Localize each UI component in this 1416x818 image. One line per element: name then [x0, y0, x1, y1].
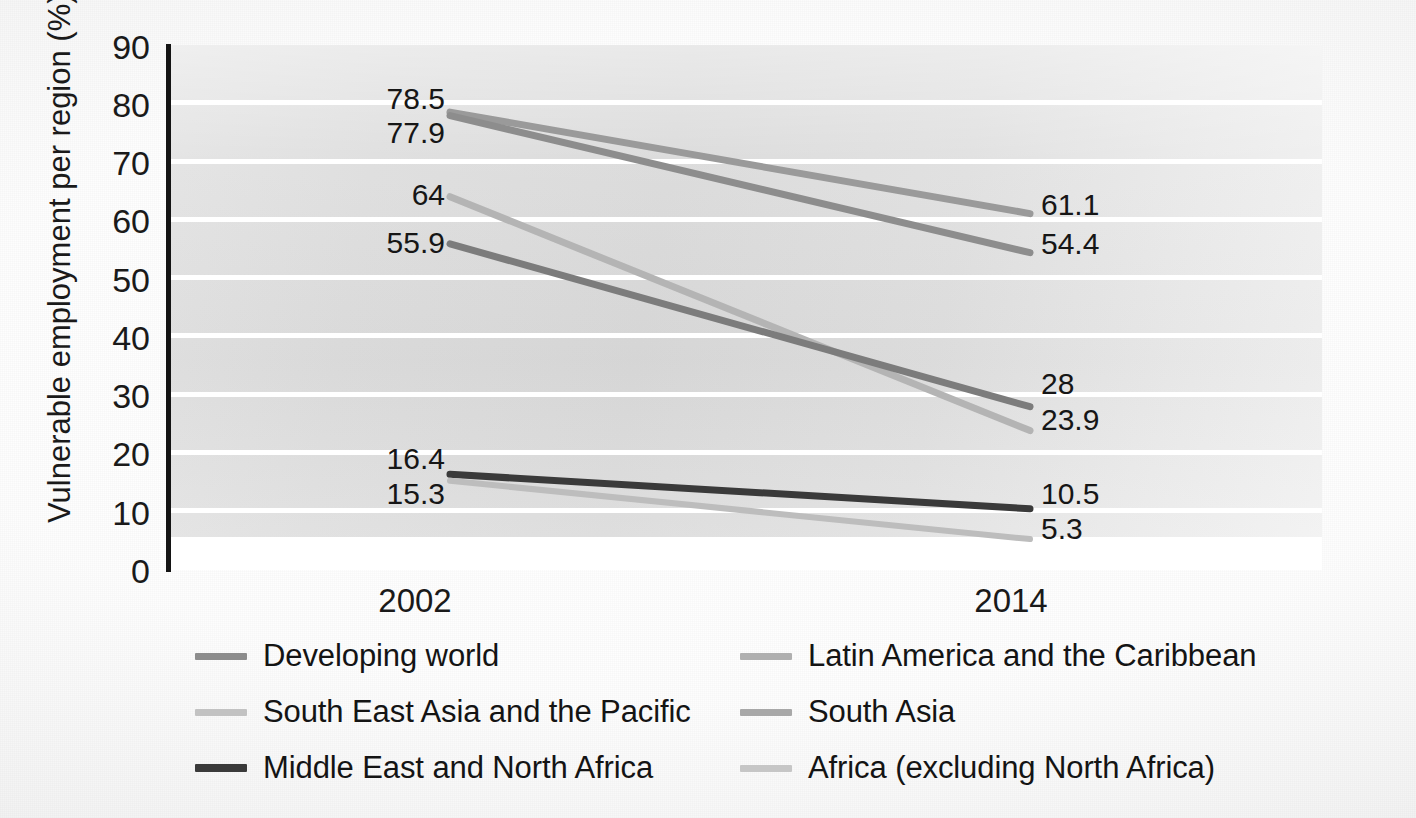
- x-tick-2014: 2014: [911, 582, 1111, 620]
- gridline-50: [168, 275, 1322, 280]
- legend-item-middle-east-and-north-africa[interactable]: Middle East and North Africa: [195, 740, 740, 796]
- legend-swatch-icon: [195, 709, 247, 716]
- legend-label: Africa (excluding North Africa): [808, 750, 1215, 786]
- legend-item-south-asia[interactable]: South Asia: [740, 684, 1300, 740]
- legend-swatch-icon: [740, 653, 792, 660]
- legend-label: South Asia: [808, 694, 955, 730]
- chart-page: 90 80 70 60 50 40 30 20 10 0 Vulnerable …: [0, 0, 1416, 818]
- gridline-40: [168, 333, 1322, 338]
- data-label-2002-latin-america: 78.5: [295, 84, 445, 114]
- legend-item-africa-excluding-north-africa[interactable]: Africa (excluding North Africa): [740, 740, 1300, 796]
- data-label-2002-developing-world: 77.9: [295, 118, 445, 148]
- legend-label: Developing world: [263, 638, 499, 674]
- y-tick-0: 0: [30, 554, 150, 588]
- legend-swatch-icon: [740, 765, 792, 772]
- x-tick-2002: 2002: [315, 582, 515, 620]
- data-label-2014-south-east-asia: 23.9: [1041, 405, 1099, 435]
- legend-label: South East Asia and the Pacific: [263, 694, 691, 730]
- legend-swatch-icon: [740, 709, 792, 716]
- gridline-30: [168, 392, 1322, 397]
- legend-swatch-icon: [195, 764, 247, 772]
- gridline-zero-band: [168, 537, 1322, 570]
- legend-item-developing-world[interactable]: Developing world: [195, 628, 740, 684]
- chart-legend: Developing world Latin America and the C…: [195, 628, 1315, 796]
- legend-label: Middle East and North Africa: [263, 750, 653, 786]
- gridline-70: [168, 159, 1322, 164]
- data-label-2002-middle-east: 16.4: [295, 444, 445, 474]
- legend-swatch-icon: [195, 653, 247, 660]
- data-label-2014-africa: 5.3: [1041, 514, 1083, 544]
- legend-item-latin-america-and-the-caribbean[interactable]: Latin America and the Caribbean: [740, 628, 1300, 684]
- data-label-2014-middle-east: 10.5: [1041, 479, 1099, 509]
- y-axis-spine: [166, 44, 171, 572]
- data-label-2002-south-east-asia: 64: [295, 180, 445, 210]
- data-label-2002-africa: 15.3: [295, 479, 445, 509]
- y-axis-title: Vulnerable employment per region (%): [42, 83, 78, 523]
- data-label-2014-south-asia: 28: [1041, 369, 1074, 399]
- data-label-2014-developing-world: 54.4: [1041, 229, 1099, 259]
- data-label-2002-south-asia: 55.9: [295, 228, 445, 258]
- data-label-2014-latin-america: 61.1: [1041, 190, 1099, 220]
- gridline-10: [168, 508, 1322, 513]
- legend-item-south-east-asia-and-the-pacific[interactable]: South East Asia and the Pacific: [195, 684, 740, 740]
- legend-label: Latin America and the Caribbean: [808, 638, 1256, 674]
- gridline-60: [168, 217, 1322, 222]
